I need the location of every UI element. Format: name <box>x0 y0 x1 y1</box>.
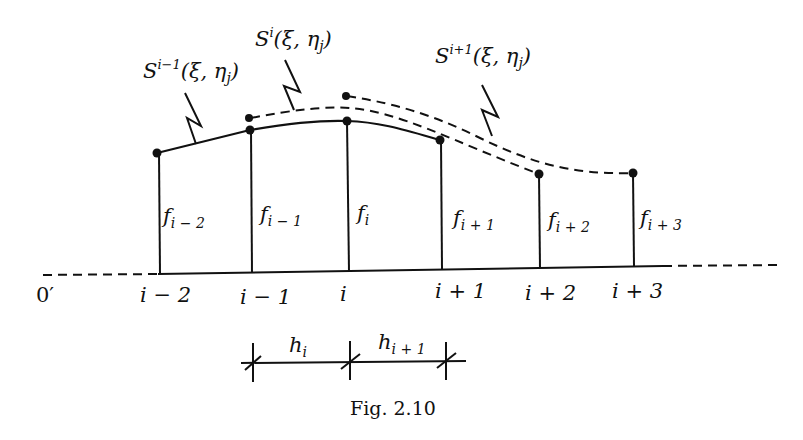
ordinate-i-2 <box>159 153 160 274</box>
interval-label-h-i+1: hi + 1 <box>378 330 426 357</box>
dot-f-i+3 <box>629 169 638 178</box>
spline-s-i-plus-1-curve <box>347 96 633 173</box>
ordinate-i+2 <box>539 174 540 268</box>
value-label-f-i: fi <box>355 201 369 228</box>
axis-label-i+1: i + 1 <box>435 279 486 303</box>
dot-f-i <box>343 117 352 126</box>
ordinate-i-1 <box>251 130 252 273</box>
axis-label-i-1: i − 1 <box>240 285 291 309</box>
axis-label-i+2: i + 2 <box>525 281 576 305</box>
dot-f-i-1 <box>246 126 255 135</box>
dot-f-i-2 <box>153 149 162 158</box>
dot-f-i+2 <box>535 170 544 179</box>
interval-label-h-i: hi <box>289 333 307 360</box>
value-label-f-i+1: fi + 1 <box>451 206 495 233</box>
x-axis <box>43 265 778 275</box>
interval-dimension <box>241 341 466 382</box>
spline-figure: Si−1(ξ, ηj) Si(ξ, ηj) Si+1(ξ, ηj) fi − 2… <box>0 0 803 440</box>
value-label-f-i+2: fi + 2 <box>546 208 590 235</box>
axis-label-i: i <box>340 282 347 306</box>
value-label-f-i-2: fi − 2 <box>161 204 205 231</box>
label-s-i-minus-1: Si−1(ξ, ηj) <box>143 57 239 86</box>
dimension-line <box>241 361 466 363</box>
dot-f-i+1 <box>436 136 445 145</box>
axis-left-dashed <box>43 274 158 275</box>
axis-label-i-2: i − 2 <box>140 283 191 307</box>
ordinates <box>159 121 634 274</box>
leader-s-i-minus-1 <box>185 93 201 144</box>
ordinate-i+1 <box>441 140 442 269</box>
origin-label: 0′ <box>36 283 54 307</box>
value-label-f-i+3: fi + 3 <box>638 206 682 233</box>
diagram-svg: Si−1(ξ, ηj) Si(ξ, ηj) Si+1(ξ, ηj) fi − 2… <box>0 0 803 440</box>
label-s-i: Si(ξ, ηj) <box>255 25 332 54</box>
label-s-i-plus-1: Si+1(ξ, ηj) <box>435 42 531 71</box>
ordinate-i <box>347 121 349 271</box>
ordinate-i+3 <box>633 173 634 266</box>
figure-caption: Fig. 2.10 <box>350 397 436 419</box>
spline-s-i-curve <box>251 107 539 174</box>
value-label-f-i-1: fi − 1 <box>258 202 302 229</box>
leader-s-i-plus-1 <box>482 85 498 136</box>
axis-solid <box>158 266 663 274</box>
dot-s-i-start <box>245 114 253 122</box>
axis-label-i+3: i + 3 <box>612 279 663 303</box>
dot-s-i-plus-1-start <box>342 92 350 100</box>
leader-s-i <box>284 60 300 110</box>
axis-right-dashed <box>663 265 778 266</box>
